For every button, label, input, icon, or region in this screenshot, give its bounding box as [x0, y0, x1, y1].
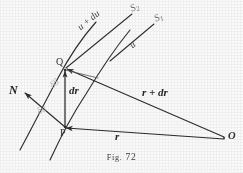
caption-prefix: Fig.: [107, 153, 123, 162]
label-normal-n: N: [9, 84, 18, 96]
vector-r-plus-dr: [67, 69, 224, 137]
point-label-q: Q: [56, 57, 63, 67]
label-r-plus-dr: r + dr: [142, 87, 168, 98]
chord-q-to-s1: [65, 70, 98, 78]
point-label-p: P: [60, 128, 66, 138]
figure-caption: Fig. 72: [0, 152, 243, 162]
figure-line-art: [0, 0, 243, 173]
point-label-o: O: [228, 131, 236, 142]
caption-number: 72: [126, 152, 137, 162]
point-marker-q: [64, 69, 66, 71]
figure-72: S2 S1 u + du u Q P O N dr r + dr r δS δu…: [0, 0, 243, 173]
point-marker-o: [223, 137, 225, 139]
label-r: r: [115, 131, 119, 142]
label-dr: dr: [69, 85, 79, 96]
vector-r: [66, 128, 224, 139]
